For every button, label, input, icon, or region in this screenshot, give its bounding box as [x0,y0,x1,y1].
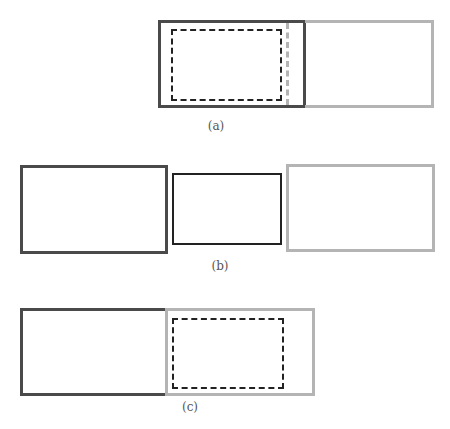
panel-a-grey-box [305,20,434,108]
panel-b-thin-box [172,173,282,245]
panel-c-label: (c) [182,400,198,414]
panel-c-dashed-box [172,318,284,389]
panel-b-grey-box [286,164,435,252]
panel-a-dashed-box [171,29,282,101]
panel-c-dark-box [20,308,168,396]
panel-a-label: (a) [208,119,225,133]
panel-b-label: (b) [211,259,228,273]
panel-b-dark-box [20,165,168,254]
panel-a-grey-dashed-line [286,23,289,105]
